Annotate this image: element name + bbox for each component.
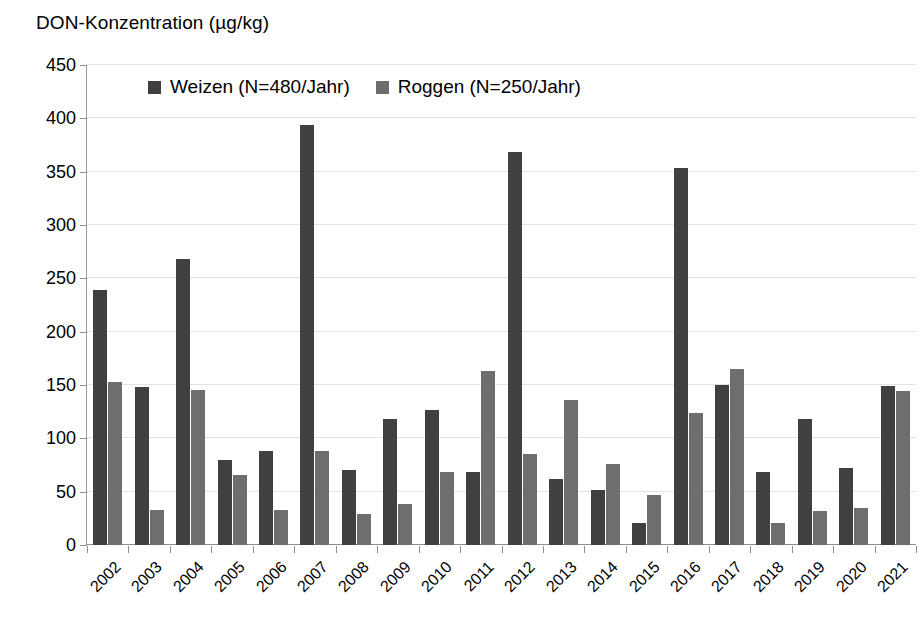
bar-2016-series1 xyxy=(689,413,703,545)
y-tick-label-wrap-300: 300 xyxy=(0,216,76,234)
x-tick-mark-0 xyxy=(87,546,88,553)
bar-2009-series0 xyxy=(383,419,397,545)
bar-2004-series1 xyxy=(191,390,205,545)
legend-swatch-icon xyxy=(148,81,161,94)
x-tick-mark-11 xyxy=(543,546,544,553)
y-axis-tick-label: 250 xyxy=(32,269,76,287)
y-axis-tick-label: 50 xyxy=(32,483,76,501)
y-axis-tick-label: 0 xyxy=(32,536,76,554)
bar-2019-series0 xyxy=(798,419,812,545)
y-tick-label-wrap-100: 100 xyxy=(0,429,76,447)
bar-2009-series1 xyxy=(398,504,412,545)
y-tick-label-wrap-150: 150 xyxy=(0,376,76,394)
x-tick-mark-14 xyxy=(667,546,668,553)
bar-2013-series1 xyxy=(564,400,578,545)
bar-2004-series0 xyxy=(176,259,190,545)
bar-2021-series1 xyxy=(896,391,910,545)
gridline-300 xyxy=(87,224,916,225)
bar-2012-series1 xyxy=(523,454,537,545)
bar-2010-series1 xyxy=(440,472,454,545)
x-tick-mark-17 xyxy=(792,546,793,553)
bar-2002-series0 xyxy=(93,290,107,545)
bar-2013-series0 xyxy=(549,479,563,545)
y-axis-tick-label: 100 xyxy=(32,429,76,447)
gridline-450 xyxy=(87,64,916,65)
x-tick-mark-19 xyxy=(875,546,876,553)
bar-2015-series1 xyxy=(647,495,661,545)
x-tick-mark-1 xyxy=(128,546,129,553)
bar-2020-series1 xyxy=(854,508,868,545)
y-axis-tick-label: 350 xyxy=(32,163,76,181)
x-tick-mark-18 xyxy=(833,546,834,553)
bar-2017-series1 xyxy=(730,369,744,545)
legend-entry-roggen[interactable]: Roggen (N=250/Jahr) xyxy=(376,76,581,98)
bar-2018-series0 xyxy=(756,472,770,545)
y-tick-mark-250 xyxy=(80,278,87,279)
bar-2002-series1 xyxy=(108,382,122,545)
y-tick-label-wrap-0: 0 xyxy=(0,536,76,554)
legend-swatch-icon xyxy=(376,81,389,94)
gridline-0 xyxy=(87,544,916,545)
gridline-250 xyxy=(87,277,916,278)
bar-2007-series0 xyxy=(300,125,314,545)
chart-title: DON-Konzentration (µg/kg) xyxy=(36,12,269,34)
bar-2015-series0 xyxy=(632,523,646,545)
y-tick-mark-450 xyxy=(80,65,87,66)
y-tick-mark-50 xyxy=(80,492,87,493)
gridline-50 xyxy=(87,491,916,492)
x-tick-mark-13 xyxy=(626,546,627,553)
x-tick-mark-15 xyxy=(709,546,710,553)
y-tick-mark-300 xyxy=(80,225,87,226)
x-tick-mark-3 xyxy=(211,546,212,553)
bar-2021-series0 xyxy=(881,386,895,545)
y-tick-mark-400 xyxy=(80,118,87,119)
chart-legend: Weizen (N=480/Jahr)Roggen (N=250/Jahr) xyxy=(148,76,581,98)
bar-2011-series1 xyxy=(481,371,495,545)
don-konzentration-bar-chart: DON-Konzentration (µg/kg) 45040035030025… xyxy=(0,0,921,628)
x-tick-mark-2 xyxy=(170,546,171,553)
y-tick-label-wrap-200: 200 xyxy=(0,323,76,341)
y-axis-tick-label: 200 xyxy=(32,323,76,341)
bar-2007-series1 xyxy=(315,451,329,545)
gridline-350 xyxy=(87,171,916,172)
x-tick-mark-9 xyxy=(460,546,461,553)
bar-2006-series1 xyxy=(274,510,288,545)
x-tick-mark-5 xyxy=(294,546,295,553)
x-tick-mark-16 xyxy=(750,546,751,553)
y-axis-tick-label: 450 xyxy=(32,56,76,74)
bar-2003-series0 xyxy=(135,387,149,545)
y-tick-mark-200 xyxy=(80,332,87,333)
legend-entry-weizen[interactable]: Weizen (N=480/Jahr) xyxy=(148,76,350,98)
x-tick-mark-12 xyxy=(584,546,585,553)
plot-area xyxy=(87,65,916,545)
bar-2012-series0 xyxy=(508,152,522,545)
bar-2011-series0 xyxy=(466,472,480,545)
x-tick-mark-20 xyxy=(916,546,917,553)
bar-2005-series1 xyxy=(233,475,247,545)
bar-2019-series1 xyxy=(813,511,827,545)
y-tick-mark-150 xyxy=(80,385,87,386)
y-tick-label-wrap-250: 250 xyxy=(0,269,76,287)
y-axis-tick-label: 150 xyxy=(32,376,76,394)
y-tick-label-wrap-400: 400 xyxy=(0,109,76,127)
y-tick-label-wrap-350: 350 xyxy=(0,163,76,181)
y-tick-label-wrap-50: 50 xyxy=(0,483,76,501)
bar-2018-series1 xyxy=(771,523,785,545)
y-tick-mark-0 xyxy=(80,545,87,546)
x-tick-mark-7 xyxy=(377,546,378,553)
y-tick-mark-350 xyxy=(80,172,87,173)
gridline-100 xyxy=(87,437,916,438)
gridline-200 xyxy=(87,331,916,332)
bar-2010-series0 xyxy=(425,410,439,545)
bar-2014-series1 xyxy=(606,464,620,545)
y-tick-label-wrap-450: 450 xyxy=(0,56,76,74)
y-axis-tick-label: 300 xyxy=(32,216,76,234)
gridline-400 xyxy=(87,117,916,118)
gridline-150 xyxy=(87,384,916,385)
bar-2006-series0 xyxy=(259,451,273,545)
y-tick-mark-100 xyxy=(80,438,87,439)
bar-2008-series0 xyxy=(342,470,356,545)
y-axis-tick-label: 400 xyxy=(32,109,76,127)
bar-2003-series1 xyxy=(150,510,164,545)
bar-2008-series1 xyxy=(357,514,371,545)
